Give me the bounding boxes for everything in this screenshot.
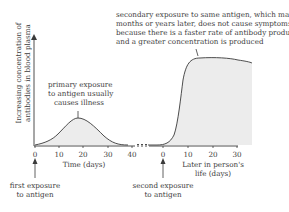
x1-tick: 40	[127, 150, 136, 159]
axis-break-icon	[137, 145, 147, 147]
y-axis-label-line2: antibodies in blood plasma	[23, 14, 32, 132]
first-exposure-label: first exposure to antigen	[2, 181, 68, 199]
x2-tick: 20	[208, 150, 217, 159]
x1-tick: 0	[33, 150, 38, 159]
x1-tick: 20	[78, 150, 87, 159]
x2-tick: 10	[183, 150, 192, 159]
x2-tick: 0	[161, 150, 166, 159]
x1-tick: 10	[54, 150, 63, 159]
primary-note-line: to antigen usually	[48, 89, 110, 98]
secondary-note-line: and a greater concentration is produced	[116, 37, 289, 46]
secondary-note-line: secondary exposure to same antigen, whic…	[116, 10, 289, 19]
x2-tick: 30	[232, 150, 241, 159]
primary-note-line: causes illness	[48, 98, 110, 107]
x2-axis-title-line: life (days)	[175, 169, 251, 178]
second-exposure-line: second exposure	[126, 181, 200, 190]
x2-axis-title: Later in person's life (days)	[175, 160, 251, 178]
second-exposure-line: to antigen	[126, 190, 200, 199]
secondary-note-pointer	[196, 49, 198, 56]
secondary-note-line: months or years later, does not cause sy…	[116, 19, 289, 28]
x2-axis-title-line: Later in person's	[175, 160, 251, 169]
primary-note-line: primary exposure	[48, 80, 110, 89]
x1-axis-title: Time (days)	[56, 160, 112, 169]
secondary-annotation: secondary exposure to same antigen, whic…	[116, 10, 289, 46]
x1-tick: 30	[103, 150, 112, 159]
primary-annotation: primary exposure to antigen usually caus…	[48, 80, 110, 107]
secondary-note-line: because there is a faster rate of antibo…	[116, 28, 289, 37]
second-exposure-label: second exposure to antigen	[126, 181, 200, 199]
primary-response-area	[35, 118, 128, 145]
first-exposure-line: first exposure	[2, 181, 68, 190]
first-exposure-line: to antigen	[2, 190, 68, 199]
y-axis-label-line1: Increasing concentration of	[14, 14, 23, 132]
secondary-response-area	[157, 58, 252, 145]
y-axis-label: Increasing concentration of antibodies i…	[14, 14, 32, 132]
